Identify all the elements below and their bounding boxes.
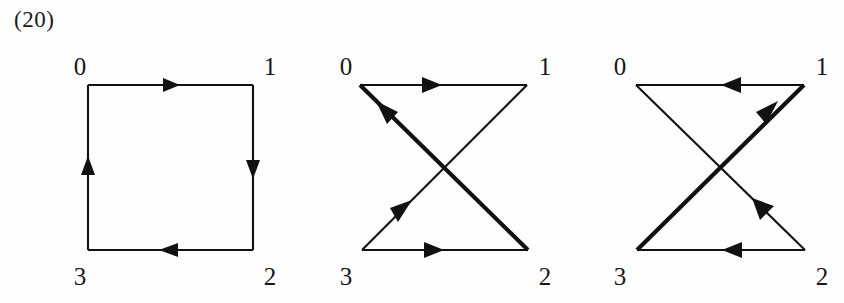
vertex-label-2: 2: [816, 263, 829, 290]
vertex-label-3: 3: [74, 263, 87, 290]
arrowhead-2-to-3-icon: [159, 243, 178, 257]
figure-directed-bowtie-left: 0 1 2 3: [566, 0, 844, 303]
vertex-label-0: 0: [74, 53, 87, 80]
arrowhead-2-to-3-icon: [722, 242, 742, 258]
arrowhead-1-to-2-icon: [246, 160, 260, 179]
vertex-label-1: 1: [816, 53, 829, 80]
vertex-label-1: 1: [539, 53, 552, 80]
vertex-label-1: 1: [264, 53, 277, 80]
bowtie-left-diagram-svg: 0 1 2 3: [566, 0, 844, 303]
vertex-label-2: 2: [539, 263, 552, 290]
bowtie-right-diagram-svg: 0 1 2 3: [290, 0, 570, 303]
vertex-label-0: 0: [614, 53, 627, 80]
figure-page: (20) 0 1 2 3: [0, 0, 844, 303]
vertex-label-3: 3: [340, 263, 353, 290]
vertex-label-2: 2: [264, 263, 277, 290]
figure-directed-bowtie-right: 0 1 2 3: [290, 0, 570, 303]
arrowhead-0-to-1-icon: [422, 77, 442, 93]
square-diagram-svg: 0 1 2 3: [0, 0, 300, 303]
arrowhead-3-to-0-icon: [81, 156, 95, 175]
arrowhead-0-to-1-icon: [163, 78, 180, 92]
vertex-label-0: 0: [340, 53, 353, 80]
arrowhead-3-to-2-icon: [424, 242, 444, 258]
figure-directed-square-cycle: 0 1 2 3: [0, 0, 300, 303]
arrowhead-1-to-0-icon: [721, 77, 741, 93]
vertex-label-3: 3: [614, 263, 627, 290]
